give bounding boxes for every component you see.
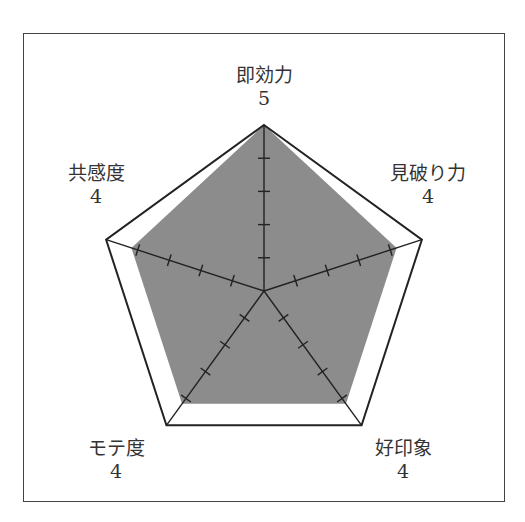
axis-label-left: 共感度 4 [68, 162, 125, 208]
axis-label-right: 見破り力 4 [390, 162, 466, 208]
label-name: 好印象 [375, 437, 432, 459]
axis-label-top: 即効力 5 [236, 64, 293, 110]
axis-label-bottom-right: 好印象 4 [375, 437, 432, 483]
label-name: 即効力 [236, 64, 293, 86]
label-value: 5 [236, 87, 293, 110]
label-name: モテ度 [88, 437, 145, 459]
label-value: 4 [375, 460, 432, 483]
label-name: 共感度 [68, 162, 125, 184]
label-name: 見破り力 [390, 162, 466, 184]
label-value: 4 [88, 460, 145, 483]
label-value: 4 [68, 185, 125, 208]
axis-label-bottom-left: モテ度 4 [88, 437, 145, 483]
label-value: 4 [390, 185, 466, 208]
